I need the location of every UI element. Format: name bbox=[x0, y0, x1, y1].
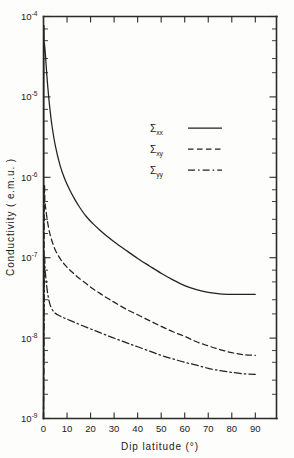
chart-legend: ΣxxΣxyΣyy bbox=[150, 123, 222, 179]
legend-label-xx: Σxx bbox=[150, 123, 164, 136]
x-tick-label: 90 bbox=[250, 423, 261, 434]
y-tick-label: 10-5 bbox=[21, 90, 38, 102]
data-curves bbox=[44, 25, 256, 418]
x-axis-tick-labels: 0102030405060708090 bbox=[41, 423, 261, 434]
legend-label-yy: Σyy bbox=[150, 165, 164, 179]
conductivity-vs-dip-latitude-chart: 10-410-510-610-710-810-9 010203040506070… bbox=[0, 0, 294, 458]
x-tick-label: 30 bbox=[109, 423, 120, 434]
x-tick-label: 40 bbox=[132, 423, 143, 434]
y-tick-label: 10-4 bbox=[21, 10, 38, 22]
x-axis-ticks bbox=[44, 17, 256, 419]
curve-sigma-xx bbox=[44, 25, 256, 418]
y-axis-title: Conductivity ( e.m.u. ) bbox=[5, 158, 16, 276]
y-axis-tick-labels: 10-410-510-610-710-810-9 bbox=[21, 10, 38, 424]
curve-sigma-xy bbox=[44, 185, 256, 418]
y-tick-label: 10-6 bbox=[21, 171, 38, 183]
x-tick-label: 20 bbox=[85, 423, 96, 434]
x-tick-label: 10 bbox=[62, 423, 73, 434]
x-tick-label: 60 bbox=[179, 423, 190, 434]
x-tick-label: 0 bbox=[41, 423, 46, 434]
legend-label-xy: Σxy bbox=[150, 144, 164, 158]
curve-sigma-yy bbox=[44, 257, 256, 419]
x-tick-label: 80 bbox=[226, 423, 237, 434]
x-tick-label: 70 bbox=[203, 423, 214, 434]
x-tick-label: 50 bbox=[156, 423, 167, 434]
y-tick-label: 10-9 bbox=[21, 412, 38, 424]
x-axis-title: Dip latitude (°) bbox=[121, 441, 199, 452]
y-axis-ticks bbox=[44, 17, 277, 419]
figure-container: 10-410-510-610-710-810-9 010203040506070… bbox=[0, 0, 294, 458]
y-tick-label: 10-8 bbox=[21, 332, 38, 344]
axes-frame bbox=[44, 17, 278, 419]
axis-titles: Dip latitude (°) Conductivity ( e.m.u. ) bbox=[5, 158, 199, 452]
y-tick-label: 10-7 bbox=[21, 251, 38, 263]
